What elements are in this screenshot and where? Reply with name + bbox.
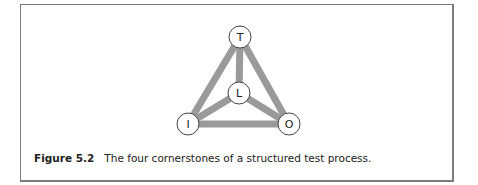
- edges: [188, 37, 289, 124]
- node-i: I: [177, 113, 199, 135]
- node-t: T: [229, 26, 251, 48]
- node-t-label: T: [236, 31, 244, 44]
- figure-caption: Figure 5.2The four cornerstones of a str…: [34, 152, 371, 164]
- figure-caption-text: The four cornerstones of a structured te…: [104, 152, 371, 164]
- figure-label: Figure 5.2: [34, 152, 94, 164]
- node-i-label: I: [186, 118, 189, 131]
- node-l: L: [228, 82, 250, 104]
- node-l-label: L: [236, 87, 243, 100]
- node-o-label: O: [285, 118, 294, 131]
- node-o: O: [278, 113, 300, 135]
